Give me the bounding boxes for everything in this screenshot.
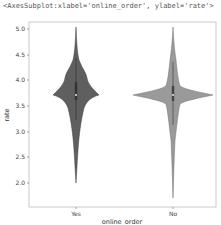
x-axis-label: online_order [102, 218, 143, 225]
y-tick-4.0: 4.0 [15, 76, 25, 83]
y-tick-4.5: 4.5 [15, 51, 25, 58]
median-yes [75, 94, 77, 96]
y-tick-3.5: 3.5 [15, 102, 25, 109]
y-tick-5.0: 5.0 [15, 25, 25, 32]
y-axis: 5.0 4.5 4.0 3.5 3.0 2.5 2.0 rate [3, 25, 29, 186]
x-axis: Yes No online_order [70, 207, 177, 225]
violin-plot: 5.0 4.5 4.0 3.5 3.0 2.5 2.0 rate Yes No … [0, 0, 221, 225]
plot-area [29, 22, 216, 207]
y-tick-3.0: 3.0 [15, 128, 25, 135]
y-axis-label: rate [3, 108, 11, 121]
x-tick-no: No [169, 210, 177, 217]
y-tick-2.5: 2.5 [15, 153, 25, 160]
median-no [172, 94, 174, 96]
y-tick-2.0: 2.0 [15, 179, 25, 186]
x-tick-yes: Yes [70, 210, 81, 217]
